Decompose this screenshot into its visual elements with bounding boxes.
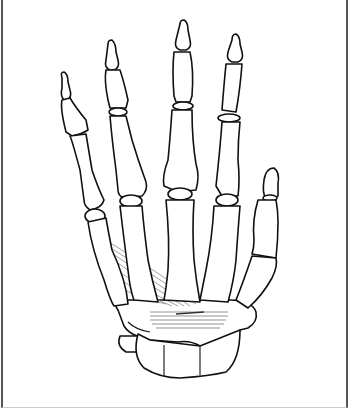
index-finger-bones: [200, 34, 243, 302]
hand-skeleton-illustration: [0, 0, 354, 410]
thumb-bones: [236, 168, 279, 308]
middle-finger-bones: [164, 20, 201, 302]
